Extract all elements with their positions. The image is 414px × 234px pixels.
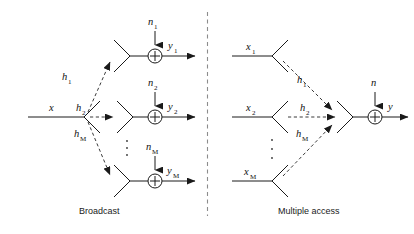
svg-text:1: 1	[68, 78, 72, 86]
label-channel-h1-right: h 1	[297, 74, 307, 89]
transmit-antenna-x2	[232, 101, 288, 133]
svg-text:n: n	[146, 141, 151, 152]
label-output-y-right: y	[387, 101, 393, 112]
svg-text:2: 2	[306, 109, 310, 117]
receive-branch-2: n 2 y 2	[117, 77, 195, 133]
svg-text:h: h	[76, 102, 81, 113]
svg-text:h: h	[62, 71, 67, 82]
svg-text:M: M	[152, 148, 159, 156]
label-transmit-x2: x 2	[245, 102, 256, 117]
svg-text:n: n	[371, 77, 376, 88]
label-transmit-xM: x M	[243, 166, 257, 181]
receive-antenna-right	[337, 101, 368, 133]
adder-node-2	[148, 110, 162, 124]
broadcast-panel: x h 1 h 2 h M	[28, 16, 195, 216]
channel-arrow-h1-right	[283, 61, 332, 110]
multiple-access-panel: x 1 x 2 x M	[232, 40, 408, 216]
transmit-ellipsis-right	[271, 139, 273, 159]
svg-text:x: x	[245, 102, 251, 113]
svg-text:1: 1	[303, 81, 307, 89]
channel-arrow-hM	[88, 122, 110, 175]
label-output-y2: y 2	[167, 101, 178, 116]
svg-text:2: 2	[174, 108, 178, 116]
svg-text:1: 1	[252, 48, 256, 56]
receive-branch-1: n 1 y 1	[114, 16, 195, 72]
label-channel-h2-right: h 2	[300, 102, 310, 117]
transmit-antenna-xM	[232, 165, 288, 197]
label-transmit-x: x	[48, 102, 54, 113]
transmit-antenna-x1	[232, 40, 288, 72]
svg-text:h: h	[297, 74, 302, 85]
label-noise-n1: n 1	[148, 16, 158, 31]
label-channel-hM-right: h M	[296, 128, 309, 143]
label-output-yM: y M	[166, 165, 180, 180]
label-output-y1: y 1	[167, 40, 178, 55]
receive-antenna-1	[114, 40, 148, 72]
label-noise-n2: n 2	[148, 77, 158, 92]
receive-antenna-2	[117, 101, 148, 133]
svg-text:y: y	[167, 101, 173, 112]
receive-antenna-M	[114, 165, 148, 197]
figure-canvas: x h 1 h 2 h M	[0, 0, 414, 234]
adder-node-right	[368, 110, 382, 124]
channel-arrow-h1	[88, 62, 110, 112]
svg-text:h: h	[296, 128, 301, 139]
receive-branch-M: n M y M	[114, 141, 195, 197]
svg-text:x: x	[243, 166, 249, 177]
svg-text:y: y	[166, 165, 172, 176]
svg-text:M: M	[173, 172, 180, 180]
svg-text:h: h	[74, 128, 79, 139]
svg-text:M: M	[302, 135, 309, 143]
adder-node-1	[148, 49, 162, 63]
svg-text:2: 2	[154, 84, 158, 92]
svg-text:M: M	[80, 135, 87, 143]
svg-text:y: y	[387, 101, 393, 112]
adder-node-M	[148, 174, 162, 188]
branch-ellipsis-left	[126, 140, 128, 156]
svg-text:n: n	[148, 77, 153, 88]
label-noise-n-right: n	[371, 77, 376, 88]
label-noise-nM: n M	[146, 141, 159, 156]
transmit-antenna-x	[28, 101, 100, 133]
svg-text:1: 1	[174, 47, 178, 55]
label-transmit-x1: x 1	[245, 41, 256, 56]
svg-text:M: M	[250, 173, 257, 181]
channel-arrow-hM-right	[283, 125, 332, 176]
svg-text:n: n	[148, 16, 153, 27]
svg-text:1: 1	[154, 23, 158, 31]
caption-broadcast: Broadcast	[79, 206, 120, 216]
label-channel-h2: h 2	[76, 102, 86, 117]
label-channel-hM: h M	[74, 128, 87, 143]
caption-multiple-access: Multiple access	[278, 206, 340, 216]
svg-text:h: h	[300, 102, 305, 113]
svg-text:y: y	[167, 40, 173, 51]
svg-text:2: 2	[82, 109, 86, 117]
svg-text:x: x	[245, 41, 251, 52]
svg-text:2: 2	[252, 109, 256, 117]
label-channel-h1: h 1	[62, 71, 72, 86]
